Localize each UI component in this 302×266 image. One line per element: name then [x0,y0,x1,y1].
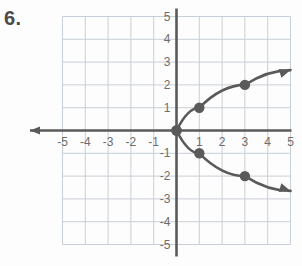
x-tick-label: 3 [242,135,249,149]
coordinate-plane-chart: -5-4-3-2-11234554321-1-2-3-4-5 [0,0,302,266]
y-tick-label: 4 [164,32,171,46]
x-tick-label: -5 [57,135,68,149]
y-tick-label: 1 [164,101,171,115]
y-tick-label: 2 [164,78,171,92]
y-tick-label: -1 [160,146,171,160]
y-tick-label: 3 [164,55,171,69]
y-tick-label: -3 [160,192,171,206]
data-point [194,103,204,113]
x-tick-label: 4 [264,135,271,149]
x-tick-label: -1 [148,135,159,149]
worksheet-problem-figure: 6. -5-4-3-2-11234554321-1-2-3-4-5 [0,0,302,266]
curve-arrowhead-lower-branch [279,183,291,192]
curve-arrowhead-upper-branch [279,69,291,78]
curve-path-upper-branch [177,70,291,130]
x-tick-label: 2 [219,135,226,149]
data-point [194,148,204,158]
y-tick-label: -5 [160,238,171,252]
y-tick-label: -4 [160,215,171,229]
data-point [240,171,250,181]
curve-path-lower-branch [177,131,291,191]
x-tick-label: -4 [80,135,91,149]
data-point [240,80,250,90]
y-tick-label: -2 [160,169,171,183]
y-tick-label: 5 [164,10,171,24]
x-tick-label: -3 [103,135,114,149]
data-point [171,125,181,135]
x-tick-label: 5 [287,135,294,149]
x-tick-label: -2 [126,135,137,149]
x-tick-label: 1 [196,135,203,149]
x-axis-left-arrowhead [30,127,40,135]
